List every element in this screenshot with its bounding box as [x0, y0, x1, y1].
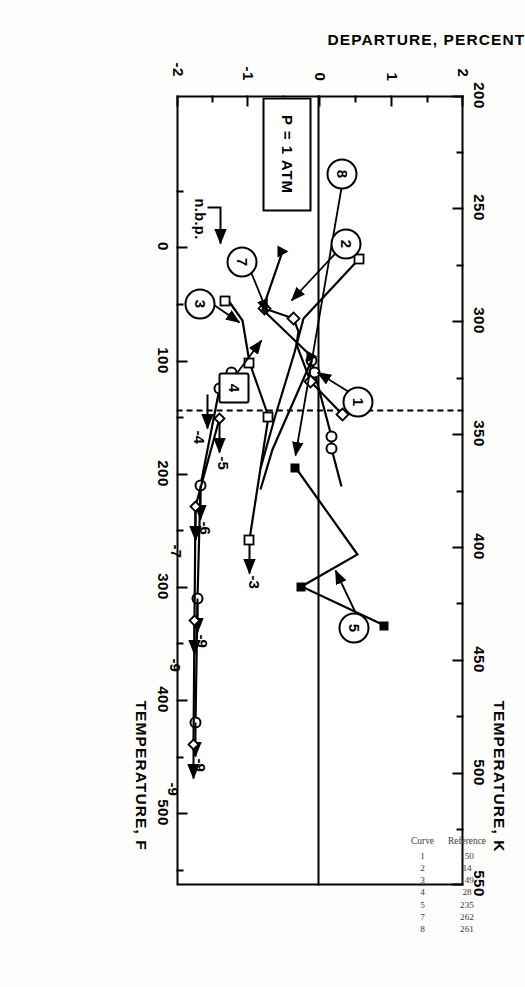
- legend-curve: 4: [404, 886, 441, 898]
- legend-header-reference: Reference: [441, 835, 493, 850]
- legend-reference: 150: [441, 850, 493, 862]
- legend-curve: 5: [404, 899, 441, 911]
- arrow-value-3: -3: [245, 575, 262, 588]
- nbp-arrow: [207, 207, 220, 243]
- legend-curve: 1: [404, 850, 441, 862]
- callout-7[interactable]: 7: [226, 246, 257, 277]
- callout-1[interactable]: 1: [342, 386, 373, 417]
- arrow-value-5: -5: [214, 456, 231, 469]
- callout-8[interactable]: 8: [326, 158, 357, 189]
- arrow-value-6: -6: [196, 521, 213, 534]
- legend-header-curve: Curve: [404, 835, 441, 850]
- callout-3[interactable]: 3: [184, 288, 215, 319]
- arrow-value-7: -7: [167, 544, 184, 557]
- legend-row: 3 149: [404, 874, 493, 886]
- series-8: [190, 367, 236, 727]
- arrow-value-9c: -9: [191, 758, 208, 771]
- legend-row: 8 261: [404, 923, 493, 935]
- series-4: [262, 245, 317, 362]
- series-3: [220, 296, 272, 544]
- arrow-value-9d: -9: [164, 782, 181, 795]
- legend-reference: 149: [441, 874, 493, 886]
- legend-curve: 7: [404, 911, 441, 923]
- legend-curve: 8: [404, 923, 441, 935]
- legend-curve: 3: [404, 874, 441, 886]
- arrow-value-4: -4: [190, 430, 207, 443]
- callout-2[interactable]: 2: [330, 228, 361, 259]
- legend-reference: 235: [441, 899, 493, 911]
- legend-reference: 14: [441, 862, 493, 874]
- off-scale-arrows: [193, 394, 249, 778]
- callout-5[interactable]: 5: [338, 612, 369, 643]
- series-1: [306, 355, 341, 486]
- legend-row: 5 235: [404, 899, 493, 911]
- legend-reference: 261: [441, 923, 493, 935]
- legend-row: 1 150: [404, 850, 493, 862]
- legend-reference: 262: [441, 911, 493, 923]
- legend-reference: 28: [441, 886, 493, 898]
- callout-4[interactable]: 4: [218, 372, 249, 403]
- series-5: [290, 463, 388, 630]
- legend-table: Curve Reference 1 150 2 14 3 149 4 28 5: [404, 835, 493, 935]
- legend-row: 2 14: [404, 862, 493, 874]
- arrow-value-9a: -9: [193, 634, 210, 647]
- arrow-value-9b: -9: [166, 658, 183, 671]
- legend-row: 7 262: [404, 911, 493, 923]
- legend-curve: 2: [404, 862, 441, 874]
- legend-row: 4 28: [404, 886, 493, 898]
